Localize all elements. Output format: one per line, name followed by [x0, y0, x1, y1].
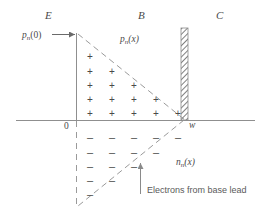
minus-sign-r1-c5: –	[173, 132, 183, 143]
minus-sign-r1-c2: –	[107, 132, 117, 143]
label-hole-boundary-value: pn(0)	[22, 31, 41, 42]
minus-sign-r2-c2: –	[107, 147, 117, 158]
region-label-emitter: E	[45, 10, 52, 21]
label-electron-distribution: nn(x)	[176, 158, 195, 169]
minus-sign-r2-c1: –	[85, 147, 95, 158]
plus-sign-r5-c2: +	[107, 109, 117, 119]
minus-sign-r5-c1: –	[85, 189, 95, 200]
plus-sign-r3-c3: +	[129, 81, 139, 91]
axis-label-base-width: w	[189, 121, 195, 131]
plus-sign-r4-c1: +	[85, 95, 95, 105]
pn0-argument: (0)	[30, 30, 41, 40]
plus-sign-r3-c1: +	[85, 81, 95, 91]
region-label-base: B	[138, 10, 145, 21]
minus-sign-r3-c1: –	[85, 161, 95, 172]
plus-sign-r5-c4: +	[151, 109, 161, 119]
minus-sign-r1-c4: –	[151, 132, 161, 143]
plus-sign-r4-c2: +	[107, 95, 117, 105]
axis-label-origin: 0	[64, 122, 69, 132]
region-label-collector: C	[216, 10, 223, 21]
minus-sign-r3-c3: –	[129, 161, 139, 172]
minus-sign-r3-c2: –	[107, 161, 117, 172]
minus-sign-r1-c1: –	[85, 132, 95, 143]
minus-sign-r4-c2: –	[107, 175, 117, 186]
minus-sign-r2-c3: –	[129, 147, 139, 158]
plus-sign-r4-c4: +	[151, 95, 161, 105]
plus-sign-r2-c1: +	[85, 67, 95, 77]
plus-sign-r5-c3: +	[129, 109, 139, 119]
plus-sign-r1-c1: +	[85, 52, 95, 62]
caption-electrons-from-base-lead: Electrons from base lead	[147, 186, 247, 195]
carrier-distribution-figure: E B C pn(0) pn(x) nn(x) 0 w Electrons fr…	[0, 0, 266, 219]
pnx-argument: (x)	[128, 34, 139, 44]
minus-sign-r1-c3: –	[129, 132, 139, 143]
collector-barrier-hatch	[181, 28, 188, 120]
minus-sign-r2-c4: –	[151, 147, 161, 158]
plus-sign-r5-c5: +	[173, 109, 183, 119]
plus-sign-r3-c2: +	[107, 81, 117, 91]
minus-sign-r4-c1: –	[85, 175, 95, 186]
plus-sign-r4-c3: +	[129, 95, 139, 105]
plus-sign-r5-c1: +	[85, 109, 95, 119]
label-hole-distribution: pn(x)	[120, 35, 139, 46]
plus-sign-r2-c2: +	[107, 67, 117, 77]
nnx-argument: (x)	[184, 157, 195, 167]
